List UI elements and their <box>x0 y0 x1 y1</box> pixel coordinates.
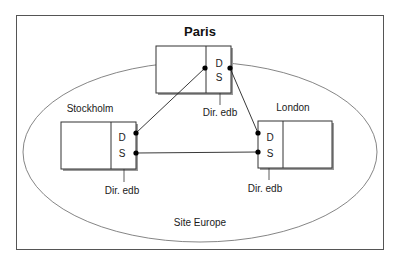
stockholm-d-letter: D <box>118 132 125 143</box>
london-s-letter: S <box>267 148 274 159</box>
stockholm-port-dot-s <box>133 150 138 155</box>
paris-title: Paris <box>184 24 216 39</box>
paris-dir-label: Dir. edb <box>203 107 238 118</box>
london-port-dot-s <box>255 149 260 154</box>
node-london[interactable]: D S London Dir. edb <box>248 102 334 194</box>
edge-stockholm-london <box>136 152 258 153</box>
site-europe-label: Site Europe <box>174 217 227 228</box>
london-d-letter: D <box>266 132 273 143</box>
london-port-dot-d <box>255 130 260 135</box>
paris-d-letter: D <box>215 58 222 69</box>
edge-paris-london <box>230 68 258 133</box>
paris-server-box <box>156 46 231 93</box>
site-diagram: D S Paris Dir. edb D S Stockholm Dir. ed… <box>0 0 396 259</box>
london-title: London <box>276 102 309 113</box>
stockholm-title: Stockholm <box>67 103 114 114</box>
london-dir-label: Dir. edb <box>248 183 283 194</box>
stockholm-s-letter: S <box>119 148 126 159</box>
paris-s-letter: S <box>216 72 223 83</box>
london-server-box <box>258 121 332 168</box>
stockholm-server-box <box>61 122 136 169</box>
node-stockholm[interactable]: D S Stockholm Dir. edb <box>61 103 140 196</box>
stockholm-dir-label: Dir. edb <box>105 185 140 196</box>
stockholm-port-dot-d <box>133 130 138 135</box>
paris-port-dot-left <box>202 65 207 70</box>
paris-port-dot-right <box>227 65 232 70</box>
node-paris[interactable]: D S Paris Dir. edb <box>156 24 238 118</box>
